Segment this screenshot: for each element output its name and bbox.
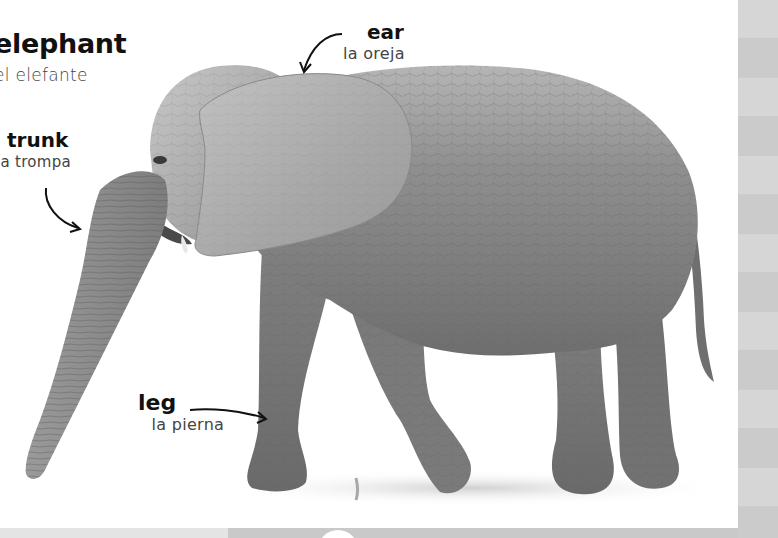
bottom-strip-right [228,528,738,538]
book-page: elephant el elefante trunk la trompa ear… [0,0,738,528]
page-edge-stripes [738,0,778,538]
leg-label: leg la pierna [138,392,224,433]
title-spanish: el elefante [0,67,126,84]
ear-label: ear la oreja [343,22,405,62]
leg-spanish: la pierna [138,417,224,433]
leg-english: leg [138,392,176,414]
eye [153,156,167,164]
title-label: elephant el elefante [0,30,126,84]
ear-spanish: la oreja [343,46,405,62]
trunk-spanish: la trompa [0,155,71,170]
bottom-strip-left [0,528,228,538]
title-english: elephant [0,30,126,57]
trunk-english: trunk [7,130,71,150]
twig [356,478,358,500]
trunk-label: trunk la trompa [0,130,71,170]
ear-english: ear [367,22,405,42]
